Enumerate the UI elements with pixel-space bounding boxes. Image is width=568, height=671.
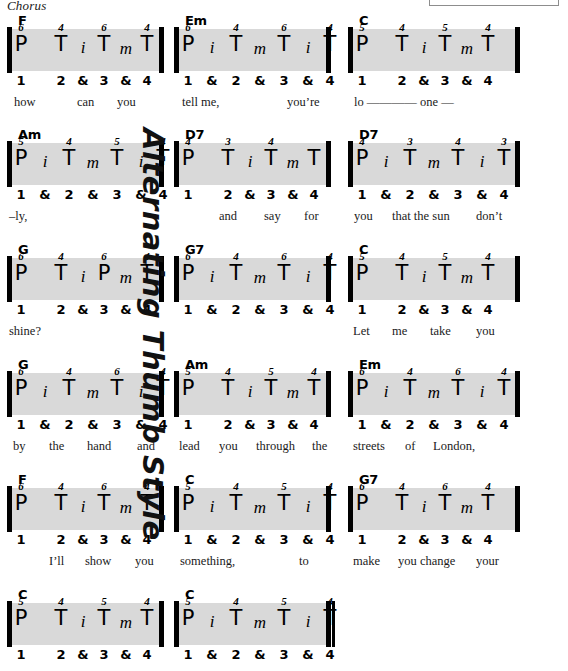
finger-symbol-i: i: [471, 153, 493, 170]
finger-symbol-m: m: [115, 269, 137, 286]
finger-symbol-P: P: [351, 493, 373, 514]
beat-count: &: [131, 188, 151, 201]
lyric-word: –ly,: [9, 210, 27, 223]
finger-symbol-T: T: [50, 493, 72, 514]
finger-symbol-T: T: [152, 378, 174, 399]
beat-count: 1: [178, 74, 198, 87]
beat-count: 3: [94, 533, 114, 546]
beat-count: 4: [304, 188, 324, 201]
lyric-word: hand: [87, 440, 111, 453]
beat-count: &: [298, 533, 318, 546]
beat-count: &: [283, 418, 303, 431]
finger-symbol-T: T: [225, 608, 247, 629]
beat-count: 3: [435, 303, 455, 316]
lyric-word: and: [137, 440, 155, 453]
beat-count: 4: [304, 418, 324, 431]
finger-symbol-T: T: [260, 148, 282, 169]
finger-symbol-T: T: [136, 608, 158, 629]
beat-count: 1: [11, 188, 31, 201]
lyric-word: lo ———— one —: [354, 96, 454, 109]
beat-count: 2: [51, 74, 71, 87]
finger-symbol-T: T: [50, 263, 72, 284]
finger-symbol-T: T: [106, 378, 128, 399]
finger-symbol-i: i: [201, 268, 223, 285]
barline-right: [326, 371, 331, 417]
finger-symbol-T: T: [136, 493, 158, 514]
finger-symbol-m: m: [423, 384, 445, 401]
finger-symbol-P: P: [10, 608, 32, 629]
beat-count: &: [116, 303, 136, 316]
finger-symbol-T: T: [273, 608, 295, 629]
lyric-word: you: [476, 325, 495, 338]
beat-count: 3: [435, 74, 455, 87]
lyric-word: don’t: [476, 210, 502, 223]
finger-symbol-P: P: [351, 148, 373, 169]
lyric-word: Let: [353, 325, 370, 338]
finger-symbol-T: T: [493, 148, 515, 169]
finger-symbol-T: T: [273, 493, 295, 514]
beat-count: &: [298, 648, 318, 661]
lyric-word: say: [264, 210, 281, 223]
beat-count: 4: [478, 74, 498, 87]
finger-symbol-i: i: [130, 383, 152, 400]
beat-count: &: [116, 74, 136, 87]
beat-count: 1: [178, 648, 198, 661]
lyric-word: for: [304, 210, 319, 223]
beat-count: &: [83, 188, 103, 201]
finger-symbol-T: T: [319, 608, 341, 629]
finger-symbol-m: m: [249, 614, 271, 631]
lyric-word: you: [354, 210, 373, 223]
lyric-word: and: [219, 210, 237, 223]
beat-count: 1: [11, 418, 31, 431]
barline-right: [515, 486, 520, 532]
lyric-word: you’re: [287, 96, 320, 109]
beat-count: &: [414, 533, 434, 546]
finger-symbol-P: P: [10, 148, 32, 169]
beat-count: 2: [400, 418, 420, 431]
beat-count: &: [298, 303, 318, 316]
beat-count: 1: [11, 648, 31, 661]
finger-symbol-i: i: [201, 39, 223, 56]
finger-symbol-m: m: [456, 40, 478, 57]
finger-symbol-i: i: [72, 498, 94, 515]
lyric-word: the: [312, 440, 327, 453]
beat-count: 3: [274, 303, 294, 316]
beat-count: 1: [352, 188, 372, 201]
finger-symbol-i: i: [239, 153, 261, 170]
lyric-word: tell me,: [182, 96, 220, 109]
finger-symbol-m: m: [423, 154, 445, 171]
finger-symbol-T: T: [93, 493, 115, 514]
finger-symbol-P: P: [177, 378, 199, 399]
finger-symbol-T: T: [58, 378, 80, 399]
finger-symbol-i: i: [72, 268, 94, 285]
beat-count: 1: [11, 74, 31, 87]
beat-count: 3: [274, 74, 294, 87]
beat-count: &: [414, 74, 434, 87]
finger-symbol-i: i: [413, 268, 435, 285]
finger-symbol-T: T: [260, 378, 282, 399]
beat-count: 3: [274, 648, 294, 661]
finger-symbol-i: i: [297, 39, 319, 56]
finger-symbol-P: P: [177, 34, 199, 55]
finger-symbol-T: T: [319, 493, 341, 514]
finger-symbol-m: m: [282, 154, 304, 171]
finger-symbol-P: P: [10, 263, 32, 284]
lyric-word: through: [256, 440, 295, 453]
chorus-label: Chorus: [7, 0, 47, 14]
finger-symbol-i: i: [34, 153, 56, 170]
finger-symbol-m: m: [115, 614, 137, 631]
beat-count: 2: [218, 188, 238, 201]
finger-symbol-i: i: [72, 613, 94, 630]
beat-count: &: [376, 188, 396, 201]
beat-count: &: [283, 188, 303, 201]
finger-symbol-P: P: [10, 34, 32, 55]
beat-count: &: [457, 533, 477, 546]
beat-count: 2: [59, 188, 79, 201]
beat-count: 2: [226, 303, 246, 316]
finger-symbol-T: T: [152, 148, 174, 169]
finger-symbol-P: P: [177, 263, 199, 284]
finger-symbol-T: T: [399, 148, 421, 169]
finger-symbol-T: T: [477, 34, 499, 55]
finger-symbol-i: i: [471, 383, 493, 400]
finger-symbol-i: i: [375, 153, 397, 170]
